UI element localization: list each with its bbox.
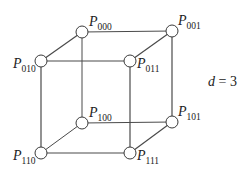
label-p111: P111 bbox=[136, 148, 159, 166]
cube-nodes bbox=[35, 25, 178, 159]
dimension-value: 3 bbox=[230, 74, 237, 89]
node-p010 bbox=[35, 55, 47, 67]
node-p101 bbox=[166, 116, 178, 128]
edge-100-110 bbox=[41, 123, 82, 153]
label-p110: P110 bbox=[12, 148, 36, 166]
node-p011 bbox=[124, 55, 136, 67]
edge-100-101 bbox=[82, 122, 172, 123]
dimension-label: d = 3 bbox=[208, 74, 237, 89]
label-p100: P100 bbox=[88, 105, 112, 123]
dimension-equals: = bbox=[215, 74, 230, 89]
node-p001 bbox=[166, 25, 178, 37]
hypercube-diagram: P000P001P010P011P100P101P110P111 d = 3 bbox=[0, 0, 252, 172]
node-p110 bbox=[35, 147, 47, 159]
label-p001: P001 bbox=[177, 13, 201, 31]
node-p000 bbox=[76, 26, 88, 38]
label-p101: P101 bbox=[177, 104, 201, 122]
node-p111 bbox=[124, 147, 136, 159]
node-p100 bbox=[76, 117, 88, 129]
label-p010: P010 bbox=[12, 56, 36, 74]
edge-000-001 bbox=[82, 31, 172, 32]
cube-edges bbox=[41, 31, 172, 153]
label-p011: P011 bbox=[136, 56, 160, 74]
label-p000: P000 bbox=[88, 14, 112, 32]
edge-000-010 bbox=[41, 32, 82, 61]
